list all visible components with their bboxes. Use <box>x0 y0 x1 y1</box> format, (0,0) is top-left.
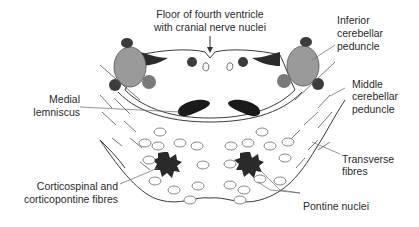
pons-cross-section-svg: Floor of fourth ventricle with cranial n… <box>0 0 419 227</box>
label-mcp-line1: Middle <box>352 78 383 90</box>
label-ml-line1: Medial <box>49 93 80 105</box>
left-corticospinal-tract <box>152 152 182 178</box>
right-corticospinal-tract <box>234 152 264 178</box>
label-mcp-line2: cerebellar <box>352 90 399 102</box>
left-bottom-dark-nucleus <box>109 79 121 91</box>
left-cranial-nerve-nucleus-outline <box>203 63 209 71</box>
right-bottom-dark-nucleus <box>312 78 324 90</box>
label-cs-line1: Corticospinal and <box>37 180 118 192</box>
label-floor-line1: Floor of fourth ventricle <box>156 8 264 20</box>
right-cranial-nerve-nucleus-outline <box>227 63 233 71</box>
label-icp-line3: peduncle <box>337 40 380 52</box>
right-grey-nucleus <box>277 74 291 88</box>
label-tf-line2: fibres <box>342 165 368 177</box>
left-top-dark-nucleus <box>121 38 133 48</box>
label-ml-line2: lemniscus <box>33 106 80 118</box>
floor-arrow-head <box>207 47 213 53</box>
right-top-dark-nucleus <box>300 37 312 47</box>
right-cranial-nerve-nucleus-dark <box>238 57 248 67</box>
label-floor-line2: with cranial nerve nuclei <box>153 21 266 33</box>
label-tf-line1: Transverse <box>342 153 394 165</box>
label-icp-line2: cerebellar <box>337 27 384 39</box>
label-pn-line1: Pontine nuclei <box>303 200 369 212</box>
basilar-outer-left <box>100 140 125 168</box>
label-cs-line2: corticopontine fibres <box>24 193 118 205</box>
label-mcp-line3: peduncle <box>352 103 395 115</box>
pons-diagram: Floor of fourth ventricle with cranial n… <box>0 0 419 227</box>
left-grey-nucleus <box>142 75 156 89</box>
left-cranial-nerve-nucleus-dark <box>187 57 197 67</box>
label-icp-line1: Inferior <box>337 14 370 26</box>
